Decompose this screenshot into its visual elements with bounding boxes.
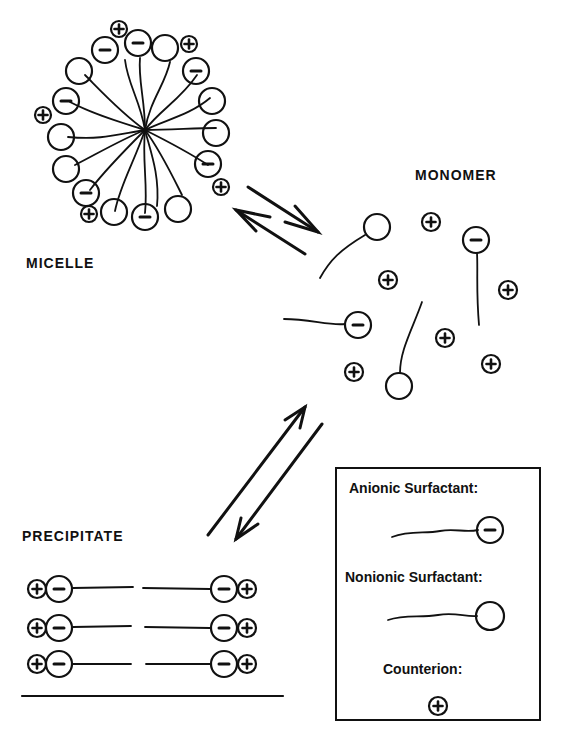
nonionic-head-icon	[199, 88, 225, 114]
legend-counterion-label: Counterion:	[383, 661, 462, 677]
nonionic-head-icon	[165, 196, 191, 222]
nonionic-head-icon	[101, 199, 127, 225]
precipitate-row	[28, 651, 256, 677]
monomer-label: MONOMER	[415, 167, 497, 183]
nonionic-head-icon	[386, 373, 412, 399]
nonionic-head-icon	[364, 214, 390, 240]
nonionic-head-icon	[53, 156, 79, 182]
micelle-heads	[48, 30, 229, 230]
monomers	[284, 213, 517, 399]
micelle-counterions	[35, 21, 229, 222]
micelle	[35, 21, 229, 230]
precipitate	[22, 576, 283, 696]
legend-anionic-label: Anionic Surfactant:	[349, 480, 478, 496]
legend-nonionic-label: Nonionic Surfactant:	[345, 569, 483, 585]
micelle-tails	[68, 58, 216, 213]
precipitate-row	[28, 576, 256, 602]
precipitate-label: PRECIPITATE	[22, 528, 124, 544]
micelle-label: MICELLE	[26, 255, 94, 271]
equilibrium-arrows-bottom	[208, 407, 322, 539]
nonionic-head-icon	[66, 58, 92, 84]
nonionic-head-icon	[152, 35, 178, 61]
equilibrium-arrows-top	[236, 187, 318, 254]
legend-box	[335, 467, 541, 721]
precipitate-row	[28, 615, 256, 641]
nonionic-head-icon	[203, 120, 229, 146]
